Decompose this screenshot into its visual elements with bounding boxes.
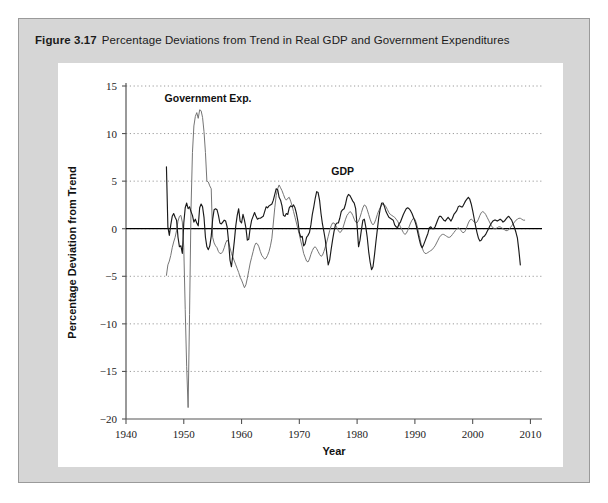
x-tick-label: 1960 — [231, 428, 254, 440]
x-tick-label: 2000 — [462, 428, 485, 440]
y-tick-label: 15 — [106, 80, 118, 92]
x-tick-label: 1990 — [404, 428, 427, 440]
x-axis-title: Year — [322, 445, 346, 457]
y-tick-label: −10 — [100, 318, 118, 330]
figure-caption: Figure 3.17Percentage Deviations from Tr… — [35, 34, 510, 46]
y-tick-label: −15 — [100, 365, 118, 377]
y-axis-title: Percentage Deviation from Trend — [66, 166, 78, 338]
y-tick-label: −5 — [105, 270, 117, 282]
axes — [122, 83, 542, 424]
x-tick-label: 1950 — [173, 428, 196, 440]
figure-title: Percentage Deviations from Trend in Real… — [102, 34, 510, 46]
x-tick-label: 1970 — [288, 428, 311, 440]
y-tick-label: 0 — [112, 223, 118, 235]
x-tick-label: 1980 — [346, 428, 369, 440]
deviations-from-trend-chart: 151050−5−10−15−20 1940195019601970198019… — [58, 63, 563, 467]
series-line-gdp — [166, 167, 520, 270]
annotation-government-exp: Government Exp. — [165, 92, 252, 104]
y-tick-label: 10 — [106, 128, 118, 140]
x-tick-label: 1940 — [115, 428, 138, 440]
y-tick-label: 5 — [112, 175, 118, 187]
plot-card: 151050−5−10−15−20 1940195019601970198019… — [58, 63, 563, 467]
figure-number: Figure 3.17 — [35, 34, 97, 46]
annotation-gdp: GDP — [331, 165, 354, 177]
series-line-government-exp — [166, 110, 524, 408]
x-tick-labels: 19401950196019701980199020002010 — [115, 428, 542, 440]
figure-panel: Figure 3.17Percentage Deviations from Tr… — [18, 18, 590, 483]
x-tick-label: 2010 — [519, 428, 542, 440]
y-tick-label: −20 — [100, 413, 118, 425]
series-lines — [166, 110, 524, 408]
y-tick-labels: 151050−5−10−15−20 — [100, 80, 118, 425]
